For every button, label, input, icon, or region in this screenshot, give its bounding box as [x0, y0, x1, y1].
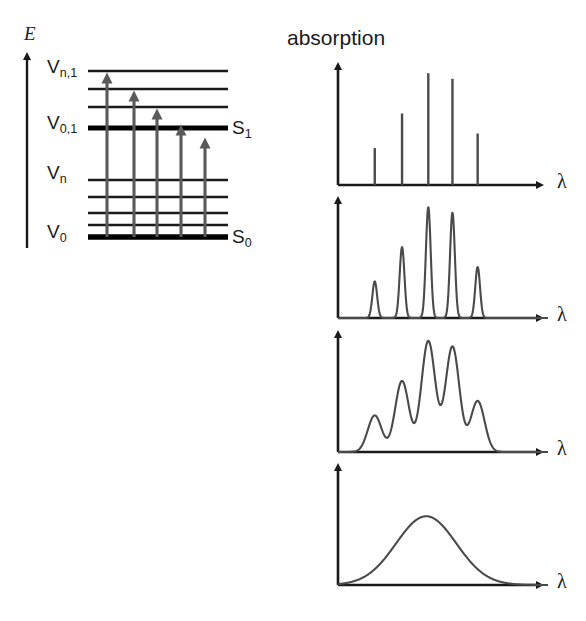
absorption-spectra-figure	[0, 0, 586, 621]
lambda-label-panel-3: λ	[557, 437, 567, 460]
level-label-v-0-1-base: V	[47, 112, 60, 133]
level-label-v-n-sub: n	[60, 172, 67, 186]
state-label-s1-base: S	[232, 117, 245, 138]
level-label-v-0-base: V	[47, 221, 60, 242]
state-label-s1-sub: 1	[245, 127, 252, 141]
level-label-v-n: Vn	[47, 163, 67, 185]
level-label-v-n-1-base: V	[47, 56, 60, 77]
level-label-v-n-1: Vn,1	[47, 57, 77, 79]
state-label-s0-base: S	[232, 226, 245, 247]
level-label-v-0-1: V0,1	[47, 113, 77, 135]
figure-background	[0, 0, 586, 621]
energy-axis-label: E	[24, 24, 36, 43]
lambda-label-panel-1: λ	[557, 170, 567, 193]
state-label-s0-sub: 0	[245, 236, 252, 250]
absorption-axis-label: absorption	[287, 27, 385, 48]
level-label-v-0: V0	[47, 222, 67, 244]
level-label-v-0-sub: 0	[60, 231, 67, 245]
level-label-v-0-1-sub: 0,1	[60, 122, 77, 136]
level-label-v-n-base: V	[47, 162, 60, 183]
state-label-s0: S0	[232, 227, 252, 249]
state-label-s1: S1	[232, 118, 252, 140]
lambda-label-panel-2: λ	[557, 303, 567, 326]
level-label-v-n-1-sub: n,1	[60, 66, 77, 80]
lambda-label-panel-4: λ	[557, 570, 567, 593]
